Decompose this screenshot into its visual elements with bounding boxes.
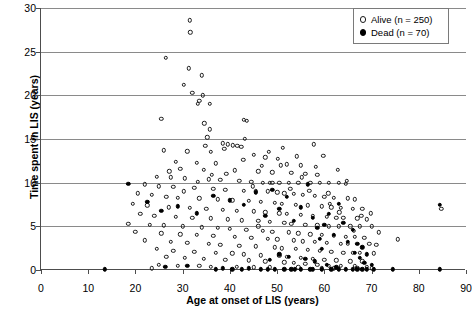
data-point: [268, 220, 272, 224]
data-point: [275, 237, 279, 241]
y-tick-label: 30: [24, 2, 36, 14]
data-point: [294, 247, 298, 251]
data-point: [281, 146, 285, 150]
x-tick-label: 10: [82, 282, 94, 294]
data-point: [327, 212, 331, 216]
data-point: [279, 163, 283, 167]
data-point: [199, 73, 203, 77]
data-point: [206, 177, 210, 181]
data-point: [295, 154, 299, 158]
data-point: [239, 145, 243, 149]
data-point: [299, 205, 303, 209]
data-point: [182, 83, 186, 87]
data-point: [315, 263, 319, 267]
data-point: [275, 157, 279, 161]
data-point: [301, 193, 305, 197]
data-point: [202, 121, 206, 125]
data-point: [395, 237, 399, 241]
data-point: [327, 180, 331, 184]
open-circle-icon: [359, 16, 367, 22]
data-point: [365, 252, 369, 256]
data-point: [159, 231, 163, 235]
y-tick: [36, 8, 41, 9]
data-point: [185, 149, 189, 153]
gridline: [41, 95, 466, 96]
data-point: [225, 217, 229, 221]
data-point: [391, 267, 395, 271]
data-point: [251, 209, 255, 213]
data-point: [261, 180, 265, 184]
data-point: [438, 267, 442, 271]
data-point: [176, 204, 180, 208]
data-point: [315, 173, 319, 177]
data-point: [341, 215, 345, 219]
data-point: [368, 211, 372, 215]
data-point: [163, 264, 167, 268]
data-point: [192, 186, 196, 190]
data-point: [296, 180, 300, 184]
data-point: [163, 56, 167, 60]
data-point: [258, 253, 262, 257]
data-point: [320, 247, 324, 251]
data-point: [313, 240, 317, 244]
data-point: [303, 262, 307, 266]
data-point: [204, 207, 208, 211]
data-point: [178, 232, 182, 236]
data-point: [199, 225, 203, 229]
data-point: [306, 182, 310, 186]
data-point: [239, 267, 243, 271]
data-point: [341, 250, 345, 254]
data-point: [346, 196, 350, 200]
data-point: [176, 263, 180, 267]
data-point: [239, 218, 243, 222]
data-point: [173, 160, 177, 164]
data-point: [235, 208, 239, 212]
data-point: [214, 267, 218, 271]
data-point: [183, 176, 187, 180]
data-point: [360, 245, 364, 249]
data-point: [273, 201, 277, 205]
data-point: [277, 180, 281, 184]
data-point: [256, 219, 260, 223]
data-point: [221, 208, 225, 212]
data-point: [214, 250, 218, 254]
data-point: [322, 257, 326, 261]
data-point: [159, 208, 163, 212]
data-point: [365, 217, 369, 221]
data-point: [291, 261, 295, 265]
data-point: [299, 267, 303, 271]
data-point: [209, 216, 213, 220]
data-point: [332, 195, 336, 199]
data-point: [258, 267, 262, 271]
data-point: [197, 196, 201, 200]
data-point: [197, 263, 201, 267]
data-point: [268, 257, 272, 261]
data-point: [358, 224, 362, 228]
data-point: [207, 102, 211, 106]
data-point: [314, 165, 318, 169]
data-point: [343, 267, 347, 271]
data-point: [287, 180, 291, 184]
data-point: [282, 267, 286, 271]
data-point: [284, 162, 288, 166]
data-point: [159, 117, 163, 121]
data-point: [258, 200, 262, 204]
data-point: [180, 224, 184, 228]
data-point: [320, 204, 324, 208]
data-point: [301, 239, 305, 243]
data-point: [270, 170, 274, 174]
data-point: [230, 251, 234, 255]
data-point: [322, 194, 326, 198]
x-axis-title: Age at onset of LIS (years): [40, 294, 465, 306]
data-point: [190, 215, 194, 219]
data-point: [188, 30, 192, 34]
data-point: [376, 230, 380, 234]
data-point: [143, 238, 147, 242]
data-point: [308, 232, 312, 236]
data-point: [173, 215, 177, 219]
y-tick-label: 0: [30, 264, 36, 276]
data-point: [282, 260, 286, 264]
data-point: [196, 102, 200, 106]
data-point: [369, 224, 373, 228]
